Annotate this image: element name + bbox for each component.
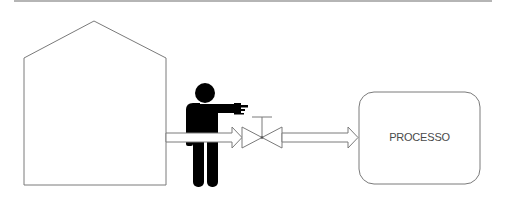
house-icon — [24, 21, 166, 185]
process-diagram: PROCESSO — [0, 0, 505, 205]
process-label: PROCESSO — [389, 131, 450, 143]
flow-arrow-valve-to-process — [282, 127, 358, 148]
valve-icon — [242, 117, 282, 148]
process-box: PROCESSO — [359, 92, 480, 184]
